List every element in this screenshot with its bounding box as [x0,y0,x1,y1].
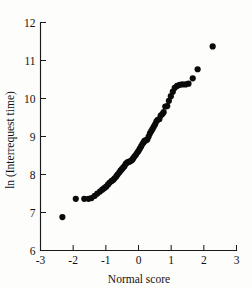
data-point [59,214,65,220]
y-tick-label: 9 [30,131,36,143]
x-axis-label: Normal score [108,273,170,285]
x-tick-label: 0 [136,254,142,266]
x-tick-label: 3 [234,254,240,266]
data-point [164,103,170,109]
y-tick-label: 7 [30,207,36,219]
data-point [190,75,196,81]
data-point [73,196,79,202]
y-tick-label: 8 [30,169,36,181]
data-point [161,109,167,115]
y-tick-label: 11 [24,55,35,67]
data-point-group [59,43,215,220]
data-point [185,81,191,87]
x-tick-label: 1 [168,254,174,266]
y-tick-group: 6789101112 [24,17,46,257]
normal-probability-plot-figure: -3-2-10123 6789101112 Normal score ln (I… [0,0,252,289]
data-point [210,43,216,49]
y-tick-label: 12 [24,17,36,29]
x-tick-group: -3-2-10123 [36,245,240,266]
data-point [195,66,201,72]
axes-group [41,23,237,251]
x-tick-label: 2 [201,254,207,266]
y-tick-label: 6 [30,245,36,257]
chart-canvas: -3-2-10123 6789101112 Normal score ln (I… [0,0,252,289]
x-tick-label: -2 [68,254,78,266]
y-axis-label: ln (Interrequest time) [4,91,17,189]
y-tick-label: 10 [24,93,36,105]
x-tick-label: -1 [101,254,111,266]
x-tick-label: -3 [36,254,46,266]
